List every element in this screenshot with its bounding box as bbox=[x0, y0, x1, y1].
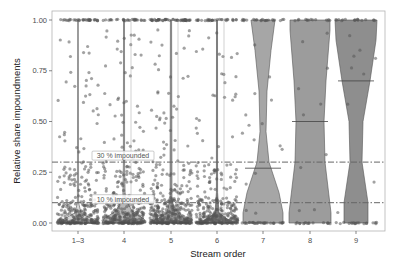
data-point bbox=[138, 111, 141, 114]
data-point bbox=[62, 203, 65, 206]
data-point bbox=[269, 222, 272, 225]
data-point bbox=[131, 209, 134, 212]
x-tick-label: 6 bbox=[215, 236, 219, 245]
data-point bbox=[69, 222, 72, 225]
data-point bbox=[218, 53, 221, 56]
data-point bbox=[208, 181, 211, 184]
data-point bbox=[342, 221, 345, 224]
data-point bbox=[103, 92, 106, 95]
data-point bbox=[158, 163, 161, 166]
y-tick-label: 0.25 bbox=[32, 168, 47, 177]
data-point bbox=[264, 19, 267, 22]
data-point bbox=[96, 209, 99, 212]
violin-chart: 30 % impounded10 % impounded 0.000.250.5… bbox=[0, 0, 404, 266]
data-point bbox=[245, 182, 248, 185]
data-point bbox=[203, 169, 206, 172]
annotation-label: 10 % impounded bbox=[97, 196, 150, 204]
data-point bbox=[293, 19, 296, 22]
data-point bbox=[88, 188, 91, 191]
data-point bbox=[365, 222, 368, 225]
data-point bbox=[160, 184, 163, 187]
data-point bbox=[122, 173, 125, 176]
data-point bbox=[229, 212, 232, 215]
data-point bbox=[88, 93, 91, 96]
data-point bbox=[169, 129, 172, 132]
data-point bbox=[174, 208, 177, 211]
data-point bbox=[220, 209, 223, 212]
data-point bbox=[117, 96, 120, 99]
data-point bbox=[149, 219, 152, 222]
data-point bbox=[226, 206, 229, 209]
data-point bbox=[232, 214, 235, 217]
data-point bbox=[173, 188, 176, 191]
data-point bbox=[156, 206, 159, 209]
data-point bbox=[141, 185, 144, 188]
data-point bbox=[64, 171, 67, 174]
data-point bbox=[234, 75, 237, 78]
data-point bbox=[235, 195, 238, 198]
x-tick-label: 7 bbox=[261, 236, 265, 245]
data-point bbox=[297, 18, 300, 21]
data-point bbox=[112, 204, 115, 207]
data-point bbox=[213, 168, 216, 171]
data-point bbox=[352, 55, 355, 58]
data-point bbox=[161, 214, 164, 217]
data-point bbox=[314, 18, 317, 21]
data-point bbox=[151, 209, 154, 212]
data-point bbox=[73, 168, 76, 171]
data-point bbox=[242, 18, 245, 21]
x-tick-label: 4 bbox=[122, 236, 126, 245]
data-point bbox=[165, 143, 168, 146]
data-point bbox=[94, 218, 97, 221]
data-point bbox=[229, 163, 232, 166]
data-point bbox=[174, 139, 177, 142]
data-point bbox=[157, 68, 160, 71]
data-point bbox=[220, 18, 223, 21]
data-point bbox=[161, 173, 164, 176]
data-point bbox=[371, 221, 374, 224]
data-point bbox=[185, 184, 188, 187]
data-point bbox=[104, 18, 107, 21]
y-tick-label: 0.50 bbox=[32, 117, 47, 126]
data-point bbox=[229, 186, 232, 189]
data-point bbox=[85, 218, 88, 221]
data-point bbox=[195, 174, 198, 177]
data-point bbox=[74, 18, 77, 21]
data-point bbox=[231, 18, 234, 21]
data-point bbox=[271, 18, 274, 21]
data-point bbox=[137, 38, 140, 41]
data-point bbox=[114, 114, 117, 117]
data-point bbox=[58, 135, 61, 138]
data-point bbox=[73, 178, 76, 181]
data-point bbox=[78, 217, 81, 220]
data-point bbox=[84, 190, 87, 193]
data-point bbox=[236, 218, 239, 221]
data-point bbox=[299, 166, 302, 169]
data-point bbox=[120, 171, 123, 174]
data-point bbox=[182, 164, 185, 167]
data-point bbox=[103, 174, 106, 177]
data-point bbox=[87, 214, 90, 217]
data-point bbox=[344, 18, 347, 21]
data-point bbox=[142, 212, 145, 215]
data-point bbox=[168, 19, 171, 22]
data-point bbox=[272, 222, 275, 225]
data-point bbox=[108, 204, 111, 207]
data-point bbox=[142, 130, 145, 133]
data-point bbox=[184, 209, 187, 212]
data-point bbox=[65, 80, 68, 83]
data-point bbox=[189, 18, 192, 21]
data-point bbox=[197, 18, 200, 21]
data-point bbox=[150, 213, 153, 216]
data-point bbox=[234, 95, 237, 98]
data-point bbox=[140, 18, 143, 21]
data-point bbox=[87, 168, 90, 171]
data-point bbox=[168, 174, 171, 177]
data-point bbox=[235, 168, 238, 171]
data-point bbox=[163, 216, 166, 219]
data-point bbox=[170, 218, 173, 221]
data-point bbox=[169, 75, 172, 78]
data-point bbox=[313, 208, 316, 211]
data-point bbox=[87, 183, 90, 186]
data-point bbox=[230, 56, 233, 59]
